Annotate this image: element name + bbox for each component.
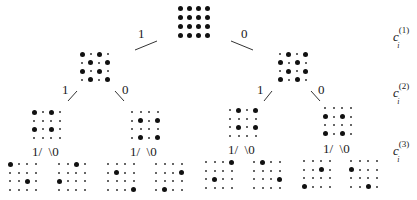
small-dot [152,186,161,195]
small-dot [250,184,259,193]
small-dot [300,157,309,166]
large-dot [87,59,96,68]
large-dot [161,186,170,195]
small-dot [228,184,237,193]
large-dot [176,4,185,13]
small-dot [56,108,65,117]
large-dot [285,67,294,76]
small-dot [32,160,41,169]
small-dot [226,123,235,132]
small-dot [152,169,161,178]
large-dot [130,186,139,195]
small-dot [39,117,48,126]
large-dot [194,13,203,22]
small-dot [219,184,228,193]
small-dot [293,50,302,59]
small-dot [259,184,268,193]
large-dot [338,113,347,122]
small-dot [267,175,276,184]
small-dot [130,160,139,169]
small-dot [309,166,318,175]
small-dot [356,174,365,183]
small-dot [326,157,335,166]
small-dot [104,160,113,169]
level-label-3: c(3)i [393,141,412,163]
large-dot [185,4,194,13]
small-dot [276,167,285,176]
large-dot [185,22,194,31]
small-dot [39,134,48,143]
large-dot [104,59,113,68]
large-dot [338,130,347,139]
small-dot [267,184,276,193]
small-dot [87,50,96,59]
small-dot [152,160,161,169]
small-dot [55,186,64,195]
large-dot [235,123,244,132]
small-dot [154,125,163,134]
small-dot [32,177,41,186]
small-dot [330,130,339,139]
large-dot [176,13,185,22]
large-dot [317,166,326,175]
large-dot [276,59,285,68]
leaf-grid-1 [6,160,40,194]
large-dot [95,50,104,59]
edge-label-0: 0 [122,83,129,96]
small-dot [72,186,81,195]
large-dot [154,134,163,143]
small-dot [95,59,104,68]
large-dot [300,183,309,192]
small-dot [104,50,113,59]
small-dot [285,59,294,68]
small-dot [56,125,65,134]
edge-label-pair: 1/ \0 [32,145,59,158]
large-dot [72,160,81,169]
level3-grid-2 [128,108,162,142]
small-dot [347,104,356,113]
small-dot [364,166,373,175]
edge-label-pair: 1/ \0 [323,142,350,155]
small-dot [243,106,252,115]
small-dot [226,106,235,115]
large-dot [276,76,285,85]
small-dot [121,186,130,195]
level3-grid-3 [226,106,260,140]
leaf-grid-5 [202,158,236,192]
small-dot [300,174,309,183]
small-dot [64,186,73,195]
small-dot [130,177,139,186]
small-dot [356,157,365,166]
small-dot [259,167,268,176]
small-dot [326,166,335,175]
small-dot [309,183,318,192]
large-dot [6,160,15,169]
small-dot [347,183,356,192]
small-dot [128,125,137,134]
large-dot [259,158,268,167]
large-dot [95,67,104,76]
small-dot [252,115,261,124]
large-dot [321,130,330,139]
large-dot [211,175,220,184]
small-dot [137,125,146,134]
small-dot [338,104,347,113]
small-dot [202,167,211,176]
small-dot [235,132,244,141]
large-dot [203,4,212,13]
small-dot [81,177,90,186]
small-dot [276,67,285,76]
small-dot [285,76,294,85]
small-dot [276,184,285,193]
small-dot [364,157,373,166]
level3-grid-4 [321,104,355,138]
large-dot [185,13,194,22]
leaf-grid-6 [250,158,284,192]
small-dot [267,167,276,176]
large-dot [87,76,96,85]
small-dot [347,121,356,130]
small-dot [64,160,73,169]
leaf-grid-8 [347,157,381,191]
small-dot [15,169,24,178]
small-dot [23,160,32,169]
